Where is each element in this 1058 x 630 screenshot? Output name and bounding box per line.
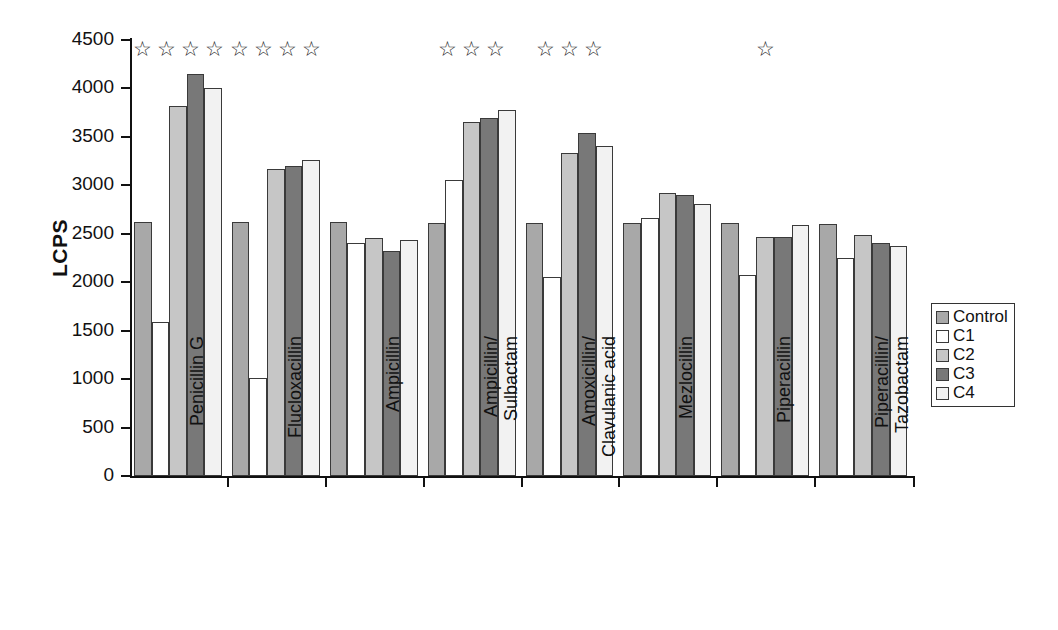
bar-group	[721, 40, 809, 476]
bar	[267, 169, 285, 476]
legend-swatch-icon	[936, 349, 949, 362]
x-axis-label-line: Penicillin G	[187, 336, 207, 426]
legend: ControlC1C2C3C4	[931, 303, 1015, 407]
y-axis-tick-label: 2000	[72, 270, 114, 292]
x-axis-label: Ampicillin/Sulbactam	[481, 336, 521, 486]
y-axis-tick-label: 500	[82, 416, 114, 438]
y-axis-tick: 4000	[121, 87, 130, 89]
plot-area: 050010001500200025003000350040004500	[130, 40, 913, 476]
bar	[739, 275, 757, 476]
y-axis-tick: 4500	[121, 39, 130, 41]
legend-item-label: C3	[953, 365, 975, 383]
x-axis-label: Ampicillin	[383, 336, 403, 486]
legend-item[interactable]: Control	[936, 308, 1008, 326]
bar-group	[134, 40, 222, 476]
y-axis-tick: 1500	[121, 330, 130, 332]
x-axis-label: Amoxicillin/Clavulanic acid	[579, 336, 619, 486]
x-axis-line	[130, 476, 915, 478]
x-axis-label-line: Amoxicillin/	[579, 336, 599, 426]
x-axis-tick	[325, 477, 327, 487]
bar	[659, 193, 677, 476]
bar	[526, 223, 544, 476]
bar	[347, 243, 365, 477]
bar-group	[232, 40, 320, 476]
bar	[623, 223, 641, 476]
legend-swatch-icon	[936, 387, 949, 400]
legend-item-label: C4	[953, 384, 975, 402]
bar	[445, 180, 463, 476]
y-axis-tick-label: 4500	[72, 28, 114, 50]
y-axis-tick-label: 4000	[72, 76, 114, 98]
x-axis-label: Mezlocillin	[676, 336, 696, 486]
bar	[641, 218, 659, 476]
y-axis-tick: 3500	[121, 136, 130, 138]
y-axis-tick: 3000	[121, 184, 130, 186]
bar	[463, 122, 481, 476]
bar	[694, 204, 712, 476]
x-axis-label-line: Ampicillin/	[481, 336, 501, 417]
bar-group	[623, 40, 711, 476]
x-axis-tick	[423, 477, 425, 487]
y-axis-tick-label: 3500	[72, 125, 114, 147]
bar	[561, 153, 579, 476]
bar	[330, 222, 348, 476]
x-axis-label-line: Sulbactam	[501, 336, 521, 486]
legend-swatch-icon	[936, 330, 949, 343]
legend-item-label: Control	[953, 308, 1008, 326]
bar	[756, 237, 774, 476]
x-axis-label-line: Clavulanic acid	[599, 336, 619, 486]
y-axis-tick: 500	[121, 427, 130, 429]
bar	[169, 106, 187, 476]
y-axis-tick: 1000	[121, 378, 130, 380]
y-axis-tick-label: 2500	[72, 222, 114, 244]
y-axis-tick-label: 1500	[72, 319, 114, 341]
bar	[721, 223, 739, 476]
y-axis-tick: 2500	[121, 233, 130, 235]
x-axis-tick	[227, 477, 229, 487]
legend-item[interactable]: C4	[936, 384, 1008, 402]
legend-item-label: C2	[953, 346, 975, 364]
bar	[543, 277, 561, 476]
y-axis-tick: 0	[121, 475, 130, 477]
bar	[854, 235, 872, 476]
x-axis-label-line: Piperacillin	[774, 336, 794, 423]
x-axis-label-line: Piperacillin/	[872, 336, 892, 428]
bar	[365, 238, 383, 476]
legend-swatch-icon	[936, 368, 949, 381]
x-axis-label: Piperacillin/Tazobactam	[872, 336, 912, 486]
x-axis-label-line: Mezlocillin	[676, 336, 696, 419]
x-axis-label: Piperacillin	[774, 336, 794, 486]
x-axis-label: Flucloxacillin	[285, 336, 305, 486]
legend-swatch-icon	[936, 311, 949, 324]
x-axis-label: Penicillin G	[187, 336, 207, 486]
bar	[428, 223, 446, 476]
y-axis-tick-label: 3000	[72, 173, 114, 195]
x-axis-label-line: Flucloxacillin	[285, 336, 305, 438]
legend-item[interactable]: C3	[936, 365, 1008, 383]
x-axis-label-line: Tazobactam	[892, 336, 912, 486]
x-axis-label-line: Ampicillin	[383, 336, 403, 412]
y-axis-tick-label: 1000	[72, 367, 114, 389]
y-axis-tick: 2000	[121, 281, 130, 283]
y-axis-title: LCPS	[48, 168, 72, 328]
bar	[134, 222, 152, 476]
bar	[204, 88, 222, 476]
x-axis-tick	[814, 477, 816, 487]
bar	[819, 224, 837, 476]
legend-item[interactable]: C1	[936, 327, 1008, 345]
bar-group	[330, 40, 418, 476]
bar	[232, 222, 250, 476]
x-axis-tick	[913, 477, 915, 487]
bar	[152, 322, 170, 476]
bar-chart: LCPS 05001000150020002500300035004000450…	[0, 0, 1058, 630]
x-axis-tick	[716, 477, 718, 487]
bar	[249, 378, 267, 476]
legend-item-label: C1	[953, 327, 975, 345]
bar	[837, 258, 855, 476]
legend-item[interactable]: C2	[936, 346, 1008, 364]
y-axis-tick-label: 0	[103, 464, 114, 486]
bar	[792, 225, 810, 476]
